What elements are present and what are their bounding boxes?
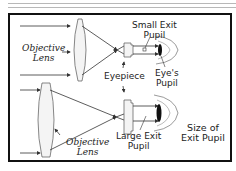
label-line: Pupil (132, 30, 177, 40)
label-line: Large Exit (116, 131, 161, 141)
label-large-exit-pupil: Large Exit Pupil (116, 131, 161, 151)
eye-pupil-bottom (157, 104, 162, 122)
label-eyepiece: Eyepiece (104, 71, 145, 81)
small-exit-pupil-marker (143, 48, 146, 51)
label-line: Lens (22, 53, 65, 63)
eyepiece-top (124, 43, 133, 57)
label-line: Small Exit (132, 20, 177, 30)
label-objective-lens-bottom: Objective Lens (66, 137, 109, 157)
label-line: Lens (66, 147, 109, 157)
label-objective-lens-top: Objective Lens (22, 43, 65, 63)
label-line: Pupil (155, 78, 179, 88)
label-small-exit-pupil: Small Exit Pupil (132, 20, 177, 40)
label-line: Pupil (116, 141, 161, 151)
eyepiece-bottom (124, 100, 133, 134)
objective-lens-bottom (38, 83, 54, 157)
label-eyes-pupil: Eye's Pupil (155, 68, 179, 88)
objective-lens-top (74, 19, 86, 81)
label-line: Objective (66, 137, 109, 147)
label-line: Exit Pupil (181, 133, 225, 143)
label-size-of-exit-pupil: Size of Exit Pupil (181, 123, 225, 143)
label-line: Eye's (155, 68, 179, 78)
label-line: Objective (22, 43, 65, 53)
eye-pupil-top (158, 44, 162, 56)
